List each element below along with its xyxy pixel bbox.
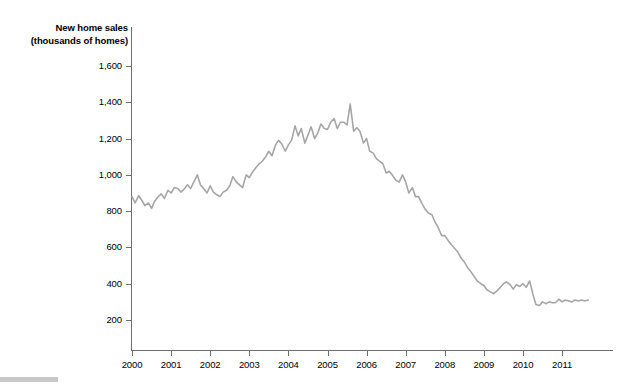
series-line-new-home-sales — [132, 104, 588, 305]
new-home-sales-line-chart: New home sales (thousands of homes) 1,60… — [0, 0, 630, 384]
series-plot — [0, 0, 630, 384]
footer-accent-bar — [0, 377, 58, 382]
